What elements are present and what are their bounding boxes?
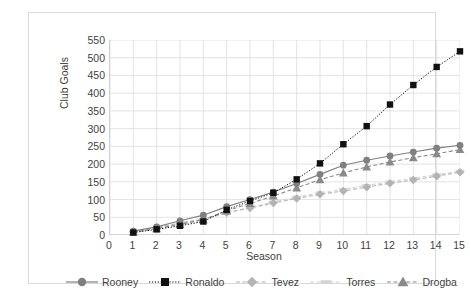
legend-marker-drogba xyxy=(386,275,420,289)
data-point xyxy=(387,153,394,160)
y-axis-tick: 100 xyxy=(69,195,105,205)
legend-marker-rooney xyxy=(65,275,99,289)
y-axis-tick: 450 xyxy=(69,70,105,80)
legend-item-tevez[interactable]: Tevez xyxy=(235,275,299,289)
data-point xyxy=(246,277,257,288)
x-axis-tick: 10 xyxy=(330,239,354,251)
data-point xyxy=(433,145,440,152)
legend-item-torres[interactable]: Torres xyxy=(309,275,375,289)
y-axis-tick: 200 xyxy=(69,159,105,169)
y-axis-tick: 50 xyxy=(69,212,105,222)
x-axis-tick: 2 xyxy=(144,239,168,251)
data-point xyxy=(269,199,278,208)
y-axis-tick-labels: 050100150200250300350400450500550 xyxy=(69,33,105,239)
data-point xyxy=(130,229,136,235)
data-point xyxy=(317,160,323,166)
x-axis-tick: 4 xyxy=(190,239,214,251)
data-point xyxy=(432,172,441,181)
plot-area xyxy=(109,40,459,235)
data-point xyxy=(340,162,347,169)
x-axis-tick: 14 xyxy=(424,239,448,251)
data-point xyxy=(177,223,183,229)
data-point xyxy=(153,226,159,232)
legend-label-rooney: Rooney xyxy=(102,276,138,288)
data-point xyxy=(433,64,439,70)
data-point xyxy=(247,198,253,204)
y-axis-tick: 300 xyxy=(69,124,105,134)
x-axis-tick: 12 xyxy=(377,239,401,251)
y-axis-tick: 150 xyxy=(69,177,105,187)
data-point xyxy=(293,176,299,182)
data-point xyxy=(339,169,348,177)
data-point xyxy=(223,207,229,213)
legend-item-drogba[interactable]: Drogba xyxy=(386,275,457,289)
series-line-ronaldo xyxy=(133,51,460,232)
data-point xyxy=(270,190,276,196)
y-axis-tick: 250 xyxy=(69,141,105,151)
data-point xyxy=(386,179,395,188)
data-point xyxy=(292,194,301,203)
legend-marker-torres xyxy=(309,275,343,289)
data-point xyxy=(78,278,86,286)
x-axis-title: Season xyxy=(234,250,294,262)
data-point xyxy=(387,101,393,107)
legend-item-ronaldo[interactable]: Ronaldo xyxy=(148,275,224,289)
y-axis-tick: 350 xyxy=(69,106,105,116)
legend-label-torres: Torres xyxy=(346,276,375,288)
data-point xyxy=(363,123,369,129)
data-point xyxy=(316,190,325,199)
legend-label-ronaldo: Ronaldo xyxy=(185,276,224,288)
data-point xyxy=(456,168,465,177)
x-axis-tick: 1 xyxy=(120,239,144,251)
y-axis-tick: 400 xyxy=(69,88,105,98)
data-point xyxy=(200,212,207,219)
legend-item-rooney[interactable]: Rooney xyxy=(65,275,138,289)
data-point xyxy=(410,149,417,156)
x-axis-tick: 0 xyxy=(97,239,121,251)
y-axis-tick: 550 xyxy=(69,35,105,45)
legend-label-drogba: Drogba xyxy=(423,276,457,288)
y-axis-tick: 500 xyxy=(69,53,105,63)
data-series-layer xyxy=(110,40,460,235)
x-axis-tick: 13 xyxy=(400,239,424,251)
data-point xyxy=(363,157,370,164)
data-point xyxy=(161,278,169,286)
legend-marker-tevez xyxy=(235,275,269,289)
data-point xyxy=(457,48,463,54)
data-point xyxy=(457,142,464,149)
x-axis-tick: 15 xyxy=(447,239,470,251)
x-axis-tick: 9 xyxy=(307,239,331,251)
legend-label-tevez: Tevez xyxy=(272,276,299,288)
chart-container: Club Goals 05010015020025030035040045050… xyxy=(28,12,436,284)
x-axis-tick: 11 xyxy=(354,239,378,251)
x-axis-tick: 3 xyxy=(167,239,191,251)
data-point xyxy=(317,171,324,178)
data-point xyxy=(200,218,206,224)
legend-marker-ronaldo xyxy=(148,275,182,289)
data-point xyxy=(321,280,332,284)
chart-legend: Rooney Ronaldo Tevez Torres Drogba xyxy=(59,271,463,293)
data-point xyxy=(410,82,416,88)
data-point xyxy=(340,141,346,147)
